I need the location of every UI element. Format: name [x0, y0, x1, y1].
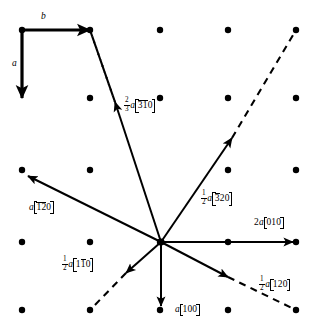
index-digit: 0 [148, 100, 153, 110]
lattice-point [225, 167, 231, 173]
vector-label-half-a-11bar0: 12a110 [62, 256, 93, 272]
lattice-point [225, 27, 231, 33]
vector-arrow-half-a-1-2-0 [161, 242, 228, 277]
miller-indices-bracket: 010 [264, 218, 284, 228]
lattice-point [19, 307, 25, 313]
dashed-extension-half-a-1-1bar-0 [90, 273, 126, 310]
origin-point [157, 238, 164, 245]
b-axis-label: b [41, 11, 46, 21]
miller-indices-bracket: 120 [270, 280, 290, 290]
fraction-two-thirds: 23 [124, 97, 130, 113]
lattice-point [157, 95, 163, 101]
miller-indices-bracket: 110 [73, 259, 93, 270]
lattice-point-group [19, 27, 299, 313]
unit-cell-axes [22, 30, 90, 98]
vector-arrow-two-thirds-a-3bar-1bar-0 [115, 102, 161, 242]
index-digit: 0 [46, 202, 51, 212]
fraction-one-half: 12 [259, 276, 265, 292]
lattice-point [19, 167, 25, 173]
lattice-point [293, 167, 299, 173]
lattice-point [87, 95, 93, 101]
miller-indices-bracket: 320 [212, 193, 232, 204]
index-digit: 0 [192, 304, 197, 314]
index-digit: 0 [225, 193, 230, 203]
vector-label-a-100: a100 [175, 305, 200, 315]
vector-label-a-1bar2bar0: a120 [29, 202, 54, 213]
vector-label-half-a-120: 12a120 [259, 276, 290, 292]
dashed-construction-lines [90, 30, 296, 310]
lattice-point [225, 95, 231, 101]
vector-arrow-group [28, 102, 293, 306]
lattice-point [225, 307, 231, 313]
lattice-vector-figure: b a 23a310 12a320 a120 2a010 12a120 a100… [0, 0, 331, 334]
lattice-point [19, 239, 25, 245]
index-digit: 0 [86, 259, 91, 269]
miller-indices-bracket: 310 [135, 100, 155, 111]
miller-indices-bracket: 100 [180, 305, 200, 315]
vector-label-2a-010: 2a010 [254, 218, 284, 228]
index-digit: 0 [276, 217, 281, 227]
dashed-extension-half-a-3bar-2-0 [232, 30, 296, 138]
lattice-point [87, 167, 93, 173]
a-axis-label: a [12, 58, 17, 68]
vector-arrow-half-a-1-1bar-0 [126, 242, 161, 273]
fraction-one-half: 12 [201, 190, 207, 206]
fraction-one-half: 12 [62, 256, 68, 272]
lattice-point [87, 239, 93, 245]
lattice-point [293, 239, 299, 245]
lattice-point [293, 95, 299, 101]
vector-label-two-thirds-a-3bar1bar0: 23a310 [124, 97, 155, 113]
vector-label-half-a-3bar20: 12a320 [201, 190, 232, 206]
lattice-point [157, 307, 163, 313]
miller-indices-bracket: 120 [34, 202, 54, 213]
lattice-point [157, 27, 163, 33]
index-digit: 0 [283, 279, 288, 289]
